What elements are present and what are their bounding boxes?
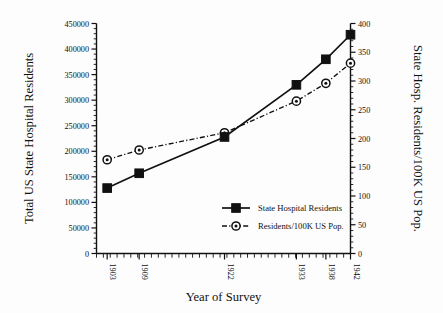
x-ticklabel-1933: 1933	[297, 264, 306, 280]
legend-marker-dot	[235, 225, 238, 228]
legend-label-residents-per-100k: Residents/100K US Pop.	[258, 221, 344, 231]
x-ticklabel-1903: 1903	[108, 264, 117, 280]
legend-marker-square	[232, 204, 241, 213]
y-ticklabel-right-0: 0	[358, 250, 362, 259]
y-ticklabel-left-0: 0	[85, 250, 89, 259]
x-ticklabel-1909: 1909	[140, 264, 149, 280]
datapoint-dot	[324, 82, 327, 85]
datapoint-state-hospital-residents-1942	[346, 30, 355, 39]
y-ticklabel-left-250000: 250000	[64, 122, 89, 131]
legend-label-state-hospital-residents: State Hospital Residents	[258, 203, 343, 213]
x-ticklabel-1922: 1922	[226, 264, 235, 280]
y-ticklabel-left-400000: 400000	[64, 45, 89, 54]
y-ticklabel-left-50000: 50000	[69, 224, 89, 233]
y-axis-right-title: State Hosp. Residents/100K US Pop.	[411, 45, 425, 232]
y-ticklabel-left-450000: 450000	[64, 20, 89, 29]
y-ticklabel-left-200000: 200000	[64, 147, 89, 156]
series-line-residents-per-100k	[107, 63, 350, 160]
y-ticklabel-right-150: 150	[358, 163, 370, 172]
y-ticklabel-right-350: 350	[358, 48, 370, 57]
datapoint-dot	[295, 100, 298, 103]
y-ticklabel-right-100: 100	[358, 192, 370, 201]
y-ticklabel-left-350000: 350000	[64, 71, 89, 80]
datapoint-dot	[106, 158, 109, 161]
y-ticklabel-right-300: 300	[358, 77, 370, 86]
y-ticklabel-left-300000: 300000	[64, 96, 89, 105]
datapoint-state-hospital-residents-1909	[135, 169, 144, 178]
chart-figure: 0500001000001500002000002500003000003500…	[0, 0, 443, 313]
y-ticklabel-left-150000: 150000	[64, 173, 89, 182]
datapoint-state-hospital-residents-1938	[322, 55, 331, 64]
y-axis-left-title: Total US State Hospital Residents	[22, 53, 36, 224]
y-ticklabel-right-200: 200	[358, 135, 370, 144]
datapoint-dot	[349, 62, 352, 65]
state-hospital-residents-line-chart: 0500001000001500002000002500003000003500…	[0, 0, 443, 313]
x-axis-title: Year of Survey	[186, 290, 262, 304]
datapoint-state-hospital-residents-1922	[220, 133, 229, 142]
y-ticklabel-right-400: 400	[358, 20, 370, 29]
datapoint-state-hospital-residents-1933	[292, 81, 301, 90]
datapoint-dot	[138, 149, 141, 152]
x-ticklabel-1938: 1938	[327, 264, 336, 280]
x-ticklabel-1942: 1942	[352, 264, 361, 280]
series-line-state-hospital-residents	[107, 35, 350, 188]
datapoint-state-hospital-residents-1903	[103, 184, 112, 193]
y-ticklabel-right-50: 50	[358, 221, 366, 230]
y-ticklabel-left-100000: 100000	[64, 198, 89, 207]
y-ticklabel-right-250: 250	[358, 106, 370, 115]
chart-legend: State Hospital ResidentsResidents/100K U…	[222, 203, 344, 231]
